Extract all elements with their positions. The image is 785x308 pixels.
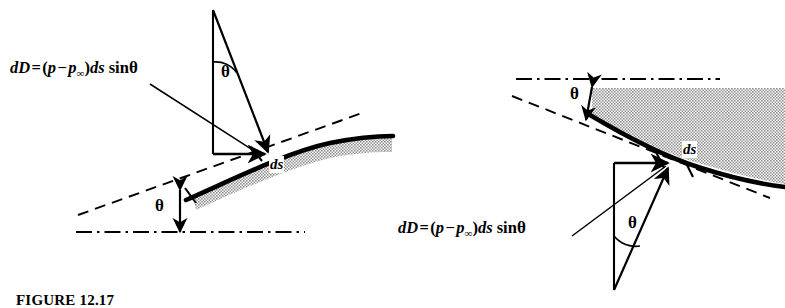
left-surface-angle-label: θ [155, 196, 164, 216]
equation-leader-line [572, 166, 666, 236]
left-ds-label: ds [269, 156, 284, 173]
right-ds-label: ds [682, 141, 697, 158]
figure-canvas: dD = (p − p∞)ds sinθ θ θ ds [0, 0, 785, 308]
pressure-force-arrow [614, 168, 668, 290]
right-force-angle-label: θ [628, 213, 637, 233]
body-shading [193, 136, 392, 210]
left-equation: dD = (p − p∞)ds sinθ [10, 58, 138, 79]
left-force-angle-label: θ [221, 62, 230, 82]
left-diagram-graphics [0, 0, 400, 260]
right-surface-angle-label: θ [570, 84, 579, 104]
right-diagram-wrapper [440, 58, 785, 308]
figure-caption: FIGURE 12.17 [16, 292, 114, 308]
right-equation: dD = (p − p∞)ds sinθ [398, 218, 526, 239]
right-diagram-graphics [440, 58, 785, 308]
